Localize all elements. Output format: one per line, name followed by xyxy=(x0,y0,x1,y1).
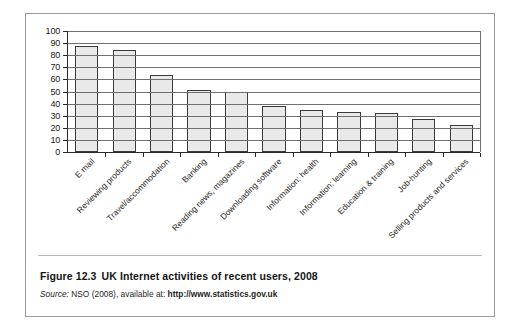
y-tick-label: 100 xyxy=(46,27,60,36)
y-tick-label: 0 xyxy=(55,148,60,157)
bar-chart: 0102030405060708090100 E mailReviewing p… xyxy=(37,31,485,176)
x-tick xyxy=(218,153,219,157)
x-tick xyxy=(105,153,106,157)
x-tick xyxy=(143,153,144,157)
x-axis-label: Banking xyxy=(181,157,209,185)
figure-source: Source: NSO (2008), available at: http:/… xyxy=(40,289,277,299)
y-tick-label: 20 xyxy=(50,123,60,132)
gridline xyxy=(68,55,480,56)
gridline xyxy=(68,43,480,44)
bar xyxy=(75,46,98,152)
figure-number: Figure 12.3 xyxy=(40,270,97,282)
bar xyxy=(113,50,136,152)
gridline xyxy=(68,31,480,32)
x-axis-ticks xyxy=(68,153,480,157)
bar xyxy=(375,113,398,152)
x-tick xyxy=(480,153,481,157)
gridline xyxy=(68,67,480,68)
y-tick-label: 10 xyxy=(50,135,60,144)
gridline xyxy=(68,128,480,129)
source-url[interactable]: http://www.statistics.gov.uk xyxy=(168,289,278,299)
plot-area xyxy=(67,31,480,153)
gridline xyxy=(68,79,480,80)
bar xyxy=(187,90,210,152)
x-tick xyxy=(180,153,181,157)
figure-caption: Figure 12.3UK Internet activities of rec… xyxy=(40,270,318,282)
x-axis-label: E mail xyxy=(73,157,96,180)
figure-title: UK Internet activities of recent users, … xyxy=(102,270,318,282)
y-tick-label: 50 xyxy=(50,87,60,96)
y-tick-label: 40 xyxy=(50,99,60,108)
gridline xyxy=(68,92,480,93)
x-tick xyxy=(405,153,406,157)
x-tick xyxy=(443,153,444,157)
x-tick xyxy=(293,153,294,157)
bar xyxy=(450,125,473,152)
caption-divider xyxy=(38,255,482,256)
x-axis-label: Job-hunting xyxy=(396,157,433,194)
bar xyxy=(337,112,360,152)
y-axis: 0102030405060708090100 xyxy=(37,31,63,153)
source-label: Source: xyxy=(40,289,69,299)
x-tick xyxy=(255,153,256,157)
bar xyxy=(225,92,248,153)
y-tick-label: 90 xyxy=(50,39,60,48)
bar xyxy=(262,106,285,152)
plot-right-edge xyxy=(480,31,481,152)
y-tick-label: 70 xyxy=(50,63,60,72)
x-tick xyxy=(330,153,331,157)
gridline xyxy=(68,104,480,105)
source-text: NSO (2008), available at: xyxy=(71,289,165,299)
figure-frame: 0102030405060708090100 E mailReviewing p… xyxy=(25,13,495,317)
gridline xyxy=(68,116,480,117)
x-axis-label: Reading news, magazines xyxy=(170,157,246,233)
gridline xyxy=(68,140,480,141)
x-axis-label: Selling products and services xyxy=(387,157,470,240)
y-tick-label: 30 xyxy=(50,111,60,120)
x-tick xyxy=(368,153,369,157)
y-tick-label: 80 xyxy=(50,51,60,60)
bar xyxy=(412,119,435,152)
y-tick-label: 60 xyxy=(50,75,60,84)
